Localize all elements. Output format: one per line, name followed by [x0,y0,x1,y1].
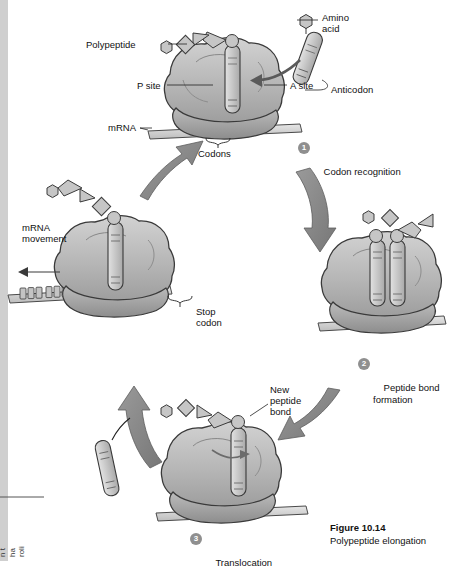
step-1-badge: 1 Codon recognition [298,142,401,190]
cycle-arrow-4-to-1 [140,141,203,200]
stage-4-ribosome [8,180,192,317]
label-codons: Codons [198,148,231,159]
step-3-badge: 3 Translocation [190,533,272,570]
stage-2-ribosome [318,210,446,334]
label-p-site: P site [137,80,161,91]
step-3-number: 3 [190,533,202,545]
label-stop-codon: Stop codon [196,306,222,328]
cycle-arrow-3-to-4 [118,386,162,468]
label-anticodon: Anticodon [331,84,373,95]
margin-note: n t ha roli [0,505,27,557]
stage-3-ribosome [94,400,308,524]
step-2-label: Peptide bond formation [373,382,440,405]
polypeptide-chain-2 [363,210,433,243]
label-mrna-1: mRNA [108,122,136,133]
exiting-trna-3 [94,439,120,497]
trna-p-site-3 [231,428,246,496]
incoming-aminoacyl-trna [291,15,325,87]
figure-caption: Polypeptide elongation [330,535,426,547]
polypeptide-chain-4 [47,180,121,225]
step-2-number: 2 [358,358,370,370]
step-3-label: Translocation [215,557,272,568]
label-polypeptide: Polypeptide [86,39,136,50]
step-1-label: Codon recognition [324,166,401,177]
step-2-badge: 2 Peptide bond formation [358,358,440,418]
label-a-site: A site [290,80,313,91]
polypeptide-chain-3 [161,400,245,429]
step-1-number: 1 [298,142,310,154]
trna-p-site-1 [225,45,240,113]
label-amino-acid: Amino acid [322,12,349,34]
figure-number: Figure 10.14 [330,522,385,534]
label-new-peptide-bond: New peptide bond [270,384,301,417]
label-mrna-movement: mRNA movement [22,222,66,244]
trna-p-site-4 [108,222,123,290]
